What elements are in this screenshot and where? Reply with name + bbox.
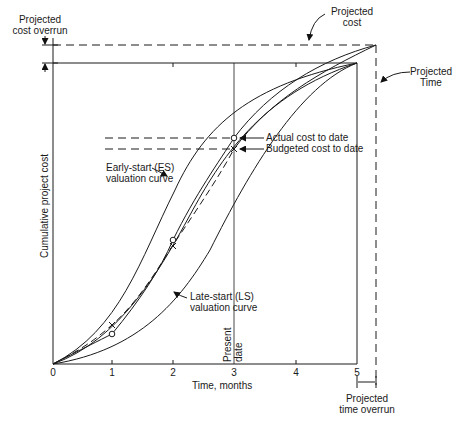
present-date-label: Present date (222, 328, 244, 362)
x-tick-4: 4 (290, 367, 302, 378)
x-tick-1: 1 (106, 367, 118, 378)
es-curve-label: Early-start (ES) valuation curve (106, 162, 174, 184)
actual-marker (109, 331, 115, 337)
x-tick-5: 5 (351, 367, 363, 378)
budgeted-marker (170, 243, 176, 249)
budgeted-cost-label: Budgeted cost to date (266, 143, 363, 154)
projected-cost-label: Projected cost (322, 6, 382, 28)
projected-time-label: Projected Time (405, 66, 457, 88)
ls-curve-label: Late-start (LS) valuation curve (190, 291, 257, 313)
actual-marker (231, 135, 237, 141)
actual-cost-label: Actual cost to date (266, 132, 348, 143)
y-axis-label: Cumulative project cost (39, 154, 50, 258)
x-tick-2: 2 (167, 367, 179, 378)
projected-time-overrun-label: Projected time overrun (330, 393, 404, 415)
x-axis-label: Time, months (192, 380, 252, 391)
ls-curve (53, 63, 357, 364)
x-tick-0: 0 (47, 367, 59, 378)
x-tick-3: 3 (228, 367, 240, 378)
planned-curve (53, 63, 357, 364)
es-curve (53, 63, 357, 364)
actual-marker (170, 237, 176, 243)
projected-cost-overrun-label: Projected cost overrun (2, 14, 78, 36)
